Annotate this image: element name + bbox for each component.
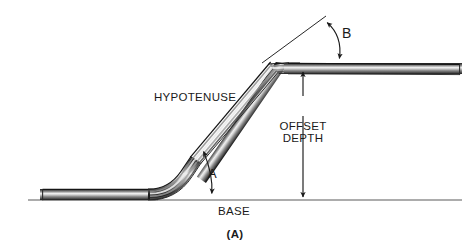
offset-depth-label: OFFSETDEPTH [279,120,326,144]
pipe-slope-lower-edge [201,72,279,164]
base-label: BASE [218,205,250,217]
offset-depth-label-line1: OFFSET [279,120,326,132]
pipe-assembly [40,45,462,200]
angle-b-annotation [262,16,340,63]
hypotenuse-extension-line [262,16,326,63]
offset-depth-label-line2: DEPTH [279,132,326,144]
pipe-lower-bend [148,153,201,200]
pipe-lower-run [40,189,158,200]
pipe-slope-shade-3 [199,70,277,163]
pipe-slope-shade-2 [197,68,275,162]
offset-bend-diagram: HYPOTENUSE OFFSETDEPTH BASE A B (A) [0,0,470,252]
angle-b-label: B [342,26,352,41]
pipe-slope-highlight [195,66,274,160]
angle-a-label: A [208,167,217,181]
hypotenuse-label: HYPOTENUSE [154,91,236,103]
figure-caption: (A) [227,228,244,240]
